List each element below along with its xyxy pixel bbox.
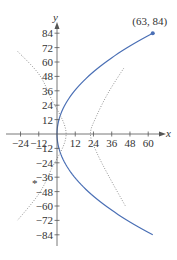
x-tick-label: 36: [106, 137, 118, 149]
y-tick-label: 12: [42, 114, 53, 126]
point-annotation: (63, 84): [132, 15, 167, 28]
y-tick-label: 72: [42, 42, 53, 54]
x-tick-label: 24: [88, 137, 100, 149]
y-tick-label: 84: [42, 27, 54, 39]
y-tick-label: 36: [42, 85, 54, 97]
x-axis-arrow-icon: [159, 132, 166, 137]
chart: −24−12122436486084726048362412−12−24−36−…: [0, 0, 177, 260]
y-axis-arrow-icon: [55, 22, 60, 29]
x-tick-label: 12: [70, 137, 81, 149]
y-tick-label: −60: [36, 200, 54, 212]
y-tick-label: 24: [42, 99, 54, 111]
y-tick-label: −48: [36, 186, 54, 198]
x-axis-label: x: [165, 127, 171, 139]
x-tick-label: −24: [12, 137, 30, 149]
y-tick-label: −12: [36, 142, 53, 154]
y-tick-label: 48: [42, 70, 54, 82]
stray-mark: *: [32, 177, 38, 189]
y-tick-label: −72: [36, 214, 53, 226]
y-tick-label: −24: [36, 157, 54, 169]
y-tick-label: −36: [36, 171, 54, 183]
tick-labels: −24−12122436486084726048362412−12−24−36−…: [12, 15, 168, 241]
x-tick-label: 60: [143, 137, 155, 149]
y-tick-label: 60: [42, 56, 54, 68]
y-axis-label: y: [52, 11, 58, 23]
point-marker: [151, 31, 155, 35]
x-tick-label: 48: [124, 137, 136, 149]
axes: [6, 22, 166, 246]
y-tick-label: −84: [36, 229, 54, 241]
